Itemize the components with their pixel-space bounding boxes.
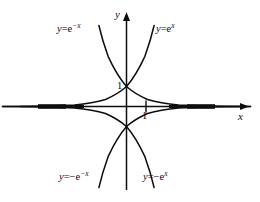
curve-label-neg-exp-x-exponent: x bbox=[164, 169, 167, 178]
y-axis-label: y bbox=[115, 9, 120, 20]
y-axis bbox=[123, 12, 130, 190]
exponential-curves-figure: y=e−x y=ex y=−e−x y=−ex y x 1 1 bbox=[0, 0, 260, 202]
curve-label-exp-x-exponent: x bbox=[171, 21, 174, 30]
curve-exp-x bbox=[3, 25, 155, 106]
plot-canvas bbox=[0, 0, 260, 202]
y-axis-tick-label-1: 1 bbox=[117, 81, 122, 92]
curve-label-neg-exp-x: y=−ex bbox=[143, 172, 168, 183]
curve-label-exp-x: y=ex bbox=[156, 24, 175, 35]
curve-label-exp-neg-x-exponent: −x bbox=[72, 21, 80, 30]
y-axis-arrowhead bbox=[123, 12, 130, 21]
curve-neg-exp-neg-x bbox=[99, 107, 251, 188]
curve-label-exp-neg-x: y=e−x bbox=[57, 24, 81, 35]
x-axis-label: x bbox=[238, 111, 243, 122]
x-axis-tick-label-1: 1 bbox=[142, 111, 147, 122]
curve-label-neg-exp-neg-x: y=−e−x bbox=[59, 172, 89, 183]
curve-exp-neg-x bbox=[99, 25, 251, 106]
curve-label-neg-exp-neg-x-exponent: −x bbox=[80, 169, 88, 178]
